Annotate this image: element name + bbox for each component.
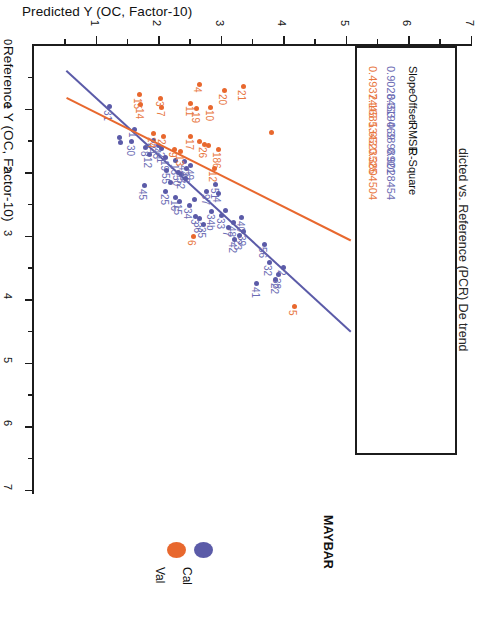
data-point [208, 105, 213, 110]
data-point-label: 4 [192, 87, 203, 93]
data-point-label: 10 [204, 110, 215, 121]
data-point [216, 191, 221, 196]
data-point [269, 130, 274, 135]
data-point-label: 41 [250, 287, 261, 298]
chart-title: dicted vs. Reference (PCR) De trend [456, 148, 470, 352]
data-point [206, 143, 211, 148]
data-point [183, 176, 188, 181]
data-point [194, 106, 199, 111]
data-point [281, 265, 286, 270]
data-point-label: 30 [125, 145, 136, 156]
data-point-label: 5 [287, 310, 298, 316]
stat-val-r-square: 0.3804504 [367, 148, 379, 200]
data-point-label: 4 [211, 197, 222, 203]
data-point [213, 182, 218, 187]
data-point-label: 42 [227, 242, 238, 253]
data-point [187, 203, 192, 208]
data-point [151, 131, 156, 136]
legend-marker-cal [194, 542, 213, 558]
data-point-label: 32 [262, 265, 273, 276]
data-point-label: 25 [159, 194, 170, 205]
data-point-label: 3 [189, 219, 200, 225]
data-point [172, 147, 177, 152]
stat-header-offset: Offset [407, 94, 419, 123]
data-point-label: 26 [197, 147, 208, 158]
data-point [168, 180, 173, 185]
data-point [191, 234, 196, 239]
stat-header-r-square: R-Square [407, 148, 419, 195]
legend-title: MAYBAR [321, 515, 335, 569]
data-point-label: 45 [137, 189, 148, 200]
data-point [117, 135, 122, 140]
data-point [177, 199, 182, 204]
data-point-label: 13 [174, 155, 185, 166]
data-point [197, 139, 202, 144]
data-point-label: 20 [217, 94, 228, 105]
data-point [159, 105, 164, 110]
data-point-label: 12 [207, 171, 218, 182]
legend-marker-val [167, 542, 186, 558]
data-point-label: 19 [190, 112, 201, 123]
data-point [216, 147, 221, 152]
data-point-label: 7 [155, 111, 166, 117]
data-point-label: 14 [134, 108, 145, 119]
data-point [254, 281, 259, 286]
data-point-label: 17 [184, 139, 195, 150]
data-point [223, 208, 228, 213]
data-point [241, 84, 246, 89]
data-point [164, 168, 169, 173]
data-point [219, 213, 224, 218]
data-point [222, 88, 227, 93]
data-point [142, 183, 147, 188]
data-point [226, 225, 231, 230]
stat-header-slope: Slope [407, 66, 419, 94]
legend: MAYBAR Val Cal [150, 515, 360, 615]
data-point-label: 33 [215, 218, 226, 229]
data-point-label: 34 [182, 208, 193, 219]
data-point [192, 197, 197, 202]
data-point [178, 149, 183, 154]
data-point [118, 140, 123, 145]
data-point [212, 166, 217, 171]
data-point [129, 139, 134, 144]
data-point-label: 2 [156, 139, 167, 145]
data-point-label: 7 [221, 231, 232, 237]
data-point [163, 189, 168, 194]
data-point [239, 215, 244, 220]
data-point-label: 21 [236, 90, 247, 101]
statistics-table: Slope0.90284530.4937445Offset0.3194692.1… [355, 46, 457, 455]
stat-cal-r-square: 0.9028454 [385, 148, 397, 200]
data-point-label: 22 [269, 283, 280, 294]
data-point [292, 304, 297, 309]
data-point-label: 56 [257, 247, 268, 258]
data-point [107, 104, 112, 109]
data-point [201, 222, 206, 227]
legend-label-val: Val [153, 567, 167, 583]
data-point [237, 233, 242, 238]
data-point-label: 35 [196, 227, 207, 238]
data-point-label: 6 [186, 240, 197, 246]
data-point-label: 24 [146, 137, 157, 148]
data-point [267, 260, 272, 265]
chart-canvas: Predicted Y (OC, Factor-10) Reference Y … [0, 0, 484, 620]
legend-label-cal: Cal [180, 567, 194, 585]
data-point [137, 92, 142, 97]
